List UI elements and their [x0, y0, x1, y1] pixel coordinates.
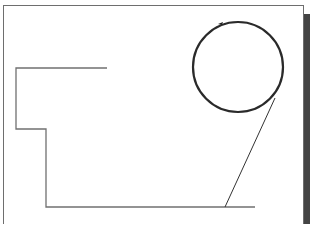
frame: [4, 6, 304, 225]
diagram-canvas: [0, 0, 314, 224]
frame-shadow: [304, 14, 310, 224]
